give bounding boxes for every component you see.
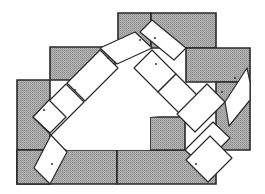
domino-dot-icon (74, 89, 76, 91)
right-upper-block (186, 48, 250, 82)
domino-dot-icon (195, 163, 197, 165)
domino-dot-icon (139, 39, 141, 41)
tiling-diagram: Domino tiling puzzle (0, 0, 265, 194)
domino-dot-icon (43, 109, 45, 111)
domino-dot-icon (154, 37, 156, 39)
domino-dot-icon (51, 163, 53, 165)
domino-dot-icon (234, 77, 236, 79)
diagram-canvas (0, 0, 265, 194)
domino-dot-icon (155, 63, 157, 65)
domino-dot-icon (107, 57, 109, 59)
center-right-block (150, 117, 185, 150)
domino-dot-icon (221, 91, 223, 93)
